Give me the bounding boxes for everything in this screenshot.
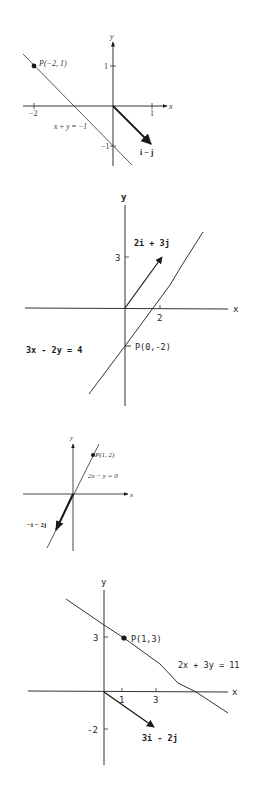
tick-label-y-3: 3 — [115, 253, 120, 263]
figure-2: x y 3 2 2i + 3j 3x - 2y = 4 P(0,-2) — [25, 192, 239, 406]
figures-canvas: x y −2 1 1 −1 x + y = −1 P(−2, 1) i − j … — [0, 0, 261, 796]
vector-neg-i-minus-2j — [56, 494, 73, 530]
line-equation-label: x + y = −1 — [53, 122, 87, 131]
tick-label-y-3: 3 — [93, 633, 98, 643]
point-label: P(−2, 1) — [38, 59, 67, 68]
point-label: P(1,3) — [131, 634, 162, 644]
x-axis-label: x — [168, 102, 173, 111]
line-equation-label: 2x + 3y = 11 — [178, 660, 239, 670]
line-2x-plus-3y — [66, 599, 228, 713]
point-label: P(1, 2) — [94, 451, 115, 459]
x-axis-label: x — [233, 304, 239, 314]
vector-label: −i − 2j — [27, 521, 46, 529]
line-equation-label: 3x - 2y = 4 — [26, 345, 82, 355]
vector-label: 2i + 3j — [134, 238, 170, 248]
figure-4: x y 3 -2 1 3 2x + 3y = 11 P(1,3) 3i - 2j — [28, 577, 239, 765]
point-p — [121, 635, 126, 640]
tick-label-x-2: 2 — [157, 313, 162, 323]
x-axis — [25, 308, 228, 309]
tick-label-x-1: 1 — [150, 109, 154, 118]
x-axis — [28, 691, 228, 692]
vector-2i-plus-3j — [125, 257, 162, 308]
tick-label-x-neg2: −2 — [29, 109, 38, 118]
x-axis-label: x — [232, 687, 238, 697]
point-label: P(0,-2) — [135, 342, 171, 352]
vector-3i-minus-2j — [104, 692, 154, 727]
vector-i-minus-j — [113, 106, 151, 144]
x-axis-label: x — [129, 491, 134, 499]
figure-3: x y 2x − y = 0 P(1, 2) −i − 2j — [23, 434, 134, 551]
tick-label-y-neg2: -2 — [87, 725, 98, 735]
tick-label-x-3: 3 — [153, 695, 158, 705]
vector-label: 3i - 2j — [142, 733, 178, 743]
vector-label: i − j — [140, 148, 154, 157]
y-axis-label: y — [109, 32, 114, 41]
y-axis-label: y — [121, 192, 127, 202]
y-axis-label: y — [101, 577, 107, 587]
figure-1: x y −2 1 1 −1 x + y = −1 P(−2, 1) i − j — [23, 32, 173, 166]
line-3x-minus-2y — [89, 232, 203, 394]
tick-label-y-neg1: −1 — [101, 142, 110, 151]
line-equation-label: 2x − y = 0 — [88, 472, 118, 480]
point-p — [32, 64, 37, 69]
y-axis-label: y — [69, 434, 74, 442]
tick-label-y-1: 1 — [104, 62, 108, 71]
